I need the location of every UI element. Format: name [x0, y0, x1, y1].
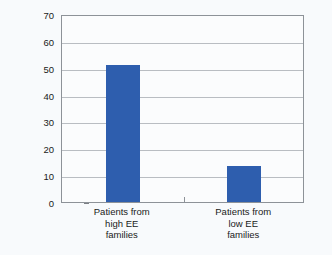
x-axis-tick-labels: Patients fromhigh EEfamiliesPatients fro… — [61, 206, 304, 252]
gridline — [62, 43, 303, 44]
y-tick-label: 50 — [28, 63, 54, 74]
y-tick-label: 70 — [28, 10, 54, 21]
gridline — [62, 177, 303, 178]
category-divider-tick — [184, 197, 185, 202]
x-tick-label: Patients fromlow EEfamilies — [183, 206, 305, 241]
plot-area — [61, 15, 304, 203]
y-axis-tick-labels: 010203040506070 — [28, 15, 54, 203]
y-tick-label: 0 — [28, 198, 54, 209]
x-tick-label-line: Patients from — [183, 206, 305, 218]
y-tick-label: 20 — [28, 144, 54, 155]
x-tick-label-line: families — [61, 229, 183, 241]
y-tick-label: 40 — [28, 90, 54, 101]
gridline — [62, 97, 303, 98]
x-tick-label-line: high EE — [61, 218, 183, 230]
y-tick-label: 30 — [28, 117, 54, 128]
y-tick-label: 60 — [28, 36, 54, 47]
x-tick-label-line: low EE — [183, 218, 305, 230]
gridline — [62, 123, 303, 124]
x-tick-label-line: families — [183, 229, 305, 241]
y-tick-label: 10 — [28, 171, 54, 182]
x-tick-label-line: Patients from — [61, 206, 183, 218]
bar — [227, 166, 261, 202]
gridline — [62, 150, 303, 151]
bar-chart-figure: Relapse Rate (%) 010203040506070 Patient… — [0, 0, 332, 255]
x-tick-label: Patients fromhigh EEfamilies — [61, 206, 183, 241]
gridline — [62, 70, 303, 71]
bar — [106, 65, 140, 202]
y-tick-mark — [84, 203, 89, 204]
